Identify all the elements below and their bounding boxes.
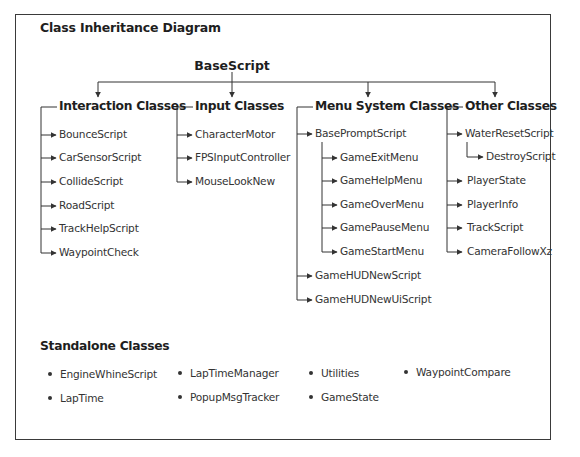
standalone-item: GameState: [309, 391, 379, 403]
class-node: MouseLookNew: [195, 175, 275, 187]
class-node: CameraFollowXz: [467, 245, 552, 257]
class-node: PlayerState: [467, 174, 526, 186]
class-node: GameStartMenu: [340, 245, 424, 257]
class-node: GameHUDNewUiScript: [315, 293, 431, 305]
class-node: GameHelpMenu: [340, 174, 422, 186]
group-header-other: Other Classes: [465, 99, 557, 113]
class-node: TrackScript: [467, 221, 523, 233]
class-node: GameHUDNewScript: [315, 269, 421, 281]
class-node: WaterResetScript: [465, 127, 553, 139]
standalone-item: Utilities: [309, 367, 359, 379]
class-node: DestroyScript: [486, 150, 555, 162]
bullet-icon: [309, 395, 313, 399]
class-node: PlayerInfo: [467, 198, 518, 210]
standalone-item: WaypointCompare: [404, 366, 511, 378]
standalone-title: Standalone Classes: [40, 339, 169, 353]
class-node: BounceScript: [59, 128, 127, 140]
group-header-menu-system: Menu System Classes: [315, 99, 459, 113]
class-node: TrackHelpScript: [59, 222, 139, 234]
class-node: CollideScript: [59, 175, 123, 187]
standalone-item: LapTime: [48, 392, 104, 404]
class-node: FPSInputController: [195, 151, 290, 163]
bullet-icon: [48, 372, 52, 376]
class-node: WaypointCheck: [59, 246, 139, 258]
class-node: BasePromptScript: [315, 127, 406, 139]
class-node: GameExitMenu: [340, 151, 418, 163]
bullet-icon: [309, 371, 313, 375]
standalone-item: LapTimeManager: [178, 367, 279, 379]
class-node: RoadScript: [59, 199, 114, 211]
group-header-interaction: Interaction Classes: [59, 99, 186, 113]
class-node: GameOverMenu: [340, 198, 424, 210]
class-node: GamePauseMenu: [340, 221, 429, 233]
bullet-icon: [178, 395, 182, 399]
standalone-item: EngineWhineScript: [48, 368, 157, 380]
bullet-icon: [178, 371, 182, 375]
class-node: CharacterMotor: [195, 128, 275, 140]
standalone-item: PopupMsgTracker: [178, 391, 279, 403]
class-node: CarSensorScript: [59, 151, 141, 163]
group-header-input: Input Classes: [195, 99, 284, 113]
bullet-icon: [48, 396, 52, 400]
bullet-icon: [404, 370, 408, 374]
